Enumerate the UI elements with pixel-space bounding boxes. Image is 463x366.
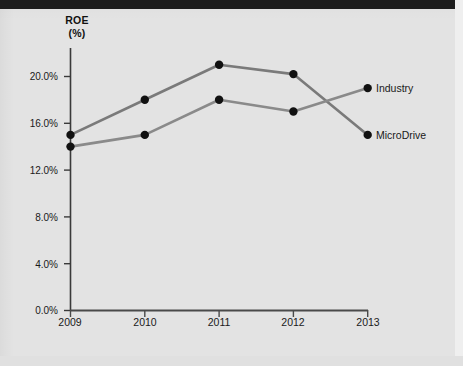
y-tick-label-8: 8.0% (14, 212, 58, 223)
legend-label-microdrive: MicroDrive (376, 129, 426, 141)
x-tick-label-2010: 2010 (120, 316, 170, 328)
x-tick-label-2009: 2009 (45, 316, 95, 328)
y-tick-label-4: 4.0% (14, 259, 58, 270)
y-tick-label-16: 16.0% (14, 118, 58, 129)
y-tick-label-20: 20.0% (14, 71, 58, 82)
y-tick-label-12: 12.0% (14, 165, 58, 176)
chart-canvas (0, 0, 463, 366)
x-tick-label-2011: 2011 (194, 316, 244, 328)
legend-label-industry: Industry (376, 82, 413, 94)
x-tick-label-2013: 2013 (343, 316, 393, 328)
y-tick-label-0: 0.0% (14, 305, 58, 316)
figure-page: ROE (%) (0, 0, 463, 366)
y-axis-ticks (64, 77, 70, 311)
x-tick-label-2012: 2012 (268, 316, 318, 328)
roe-line-chart: ROE (%) (0, 0, 463, 366)
